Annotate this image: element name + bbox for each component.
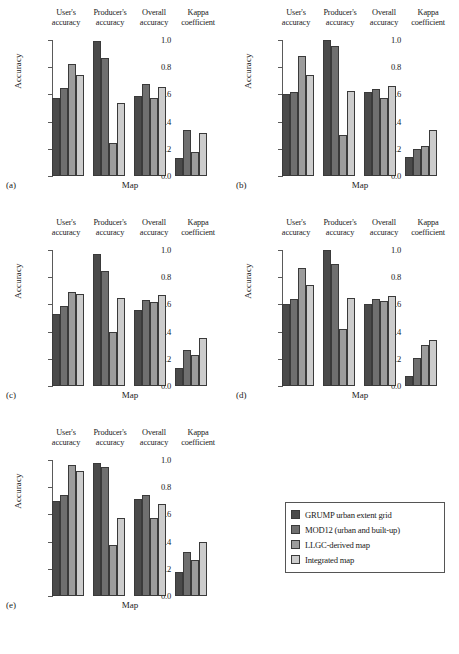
legend-swatch-icon	[291, 510, 300, 519]
bar	[183, 552, 191, 596]
y-tick-5	[48, 596, 52, 597]
x-axis-label: Map	[52, 600, 208, 610]
bar-groups	[52, 460, 208, 596]
bar-group-0	[52, 250, 85, 386]
bar-group-3	[175, 460, 208, 596]
group-header-row: User's accuracyProducer's accuracyOveral…	[44, 428, 220, 458]
bar	[282, 94, 290, 176]
bar	[364, 304, 372, 386]
bar	[158, 295, 166, 386]
legend-swatch-icon	[291, 540, 300, 549]
bar-group-0	[52, 460, 85, 596]
y-tick-5	[278, 386, 282, 387]
bar	[347, 298, 355, 386]
bar	[306, 285, 314, 386]
bar	[413, 149, 421, 176]
bar	[76, 471, 84, 596]
bar-group-2	[134, 250, 167, 386]
bar	[199, 542, 207, 596]
x-axis-label: Map	[52, 390, 208, 400]
group-header-row: User's accuracyProducer's accuracyOveral…	[274, 218, 450, 248]
bar	[175, 158, 183, 176]
group-header-2: Overall accuracy	[362, 8, 406, 38]
bar	[323, 250, 331, 386]
bar	[68, 64, 76, 176]
bar	[93, 41, 101, 176]
bar	[142, 300, 150, 386]
bar	[290, 299, 298, 386]
legend-swatch-icon	[291, 555, 300, 564]
bar	[331, 46, 339, 176]
y-axis-label: Accuracy	[13, 31, 23, 111]
bar-groups	[282, 40, 438, 176]
bar	[76, 75, 84, 176]
group-header-2: Overall accuracy	[132, 8, 176, 38]
bar-group-1	[323, 40, 356, 176]
bar-group-1	[323, 250, 356, 386]
group-header-0: User's accuracy	[44, 428, 88, 458]
bar	[150, 98, 158, 176]
legend-swatch-icon	[291, 525, 300, 534]
group-header-row: User's accuracyProducer's accuracyOveral…	[44, 8, 220, 38]
group-header-3: Kappa coefficient	[406, 8, 450, 38]
bar	[298, 56, 306, 176]
bar	[405, 376, 413, 386]
plot-area	[282, 250, 438, 386]
panel-tag: (d)	[236, 390, 247, 400]
bar	[93, 254, 101, 386]
bar-group-2	[364, 250, 397, 386]
bar	[388, 86, 396, 176]
bar	[68, 292, 76, 386]
bar	[339, 329, 347, 386]
bar	[60, 88, 68, 176]
legend-item-2: LLGC-derived map	[291, 537, 439, 552]
y-tick-5	[48, 176, 52, 177]
bar	[421, 146, 429, 176]
plot-area	[52, 460, 208, 596]
bar	[199, 133, 207, 176]
bar-group-1	[93, 460, 126, 596]
y-axis-label: Accuracy	[243, 241, 253, 321]
panel-d: User's accuracyProducer's accuracyOveral…	[230, 214, 459, 424]
bar-group-0	[52, 40, 85, 176]
bar	[290, 92, 298, 176]
y-axis-label: Accuracy	[13, 451, 23, 531]
panel-e: User's accuracyProducer's accuracyOveral…	[0, 424, 229, 634]
bar-group-0	[282, 40, 315, 176]
group-header-row: User's accuracyProducer's accuracyOveral…	[44, 218, 220, 248]
bar-group-1	[93, 40, 126, 176]
y-tick-5	[278, 176, 282, 177]
group-header-0: User's accuracy	[44, 218, 88, 248]
y-axis-label: Accuracy	[13, 241, 23, 321]
bar-groups	[52, 40, 208, 176]
bar	[421, 345, 429, 386]
panel-tag: (c)	[6, 390, 16, 400]
bar	[142, 495, 150, 596]
bar-group-3	[405, 40, 438, 176]
bar	[52, 98, 60, 176]
bar	[183, 350, 191, 386]
group-header-0: User's accuracy	[274, 218, 318, 248]
bar-group-2	[134, 40, 167, 176]
x-axis-label: Map	[282, 390, 438, 400]
bar	[191, 152, 199, 176]
bar	[339, 135, 347, 176]
bar	[101, 271, 109, 386]
group-header-3: Kappa coefficient	[176, 8, 220, 38]
legend-item-3: Integrated map	[291, 552, 439, 567]
legend-label: GRUMP urban extent grid	[305, 510, 392, 520]
bar	[347, 91, 355, 176]
group-header-row: User's accuracyProducer's accuracyOveral…	[274, 8, 450, 38]
bar-group-3	[405, 250, 438, 386]
panel-tag: (a)	[6, 180, 16, 190]
legend-label: Integrated map	[305, 555, 354, 565]
bar	[52, 314, 60, 386]
panel-tag: (e)	[6, 600, 16, 610]
legend-item-1: MOD12 (urban and built-up)	[291, 522, 439, 537]
bar-group-1	[93, 250, 126, 386]
bar	[142, 84, 150, 176]
bar	[380, 301, 388, 386]
panel-b: User's accuracyProducer's accuracyOveral…	[230, 4, 459, 214]
bar	[199, 338, 207, 386]
bar	[93, 463, 101, 596]
